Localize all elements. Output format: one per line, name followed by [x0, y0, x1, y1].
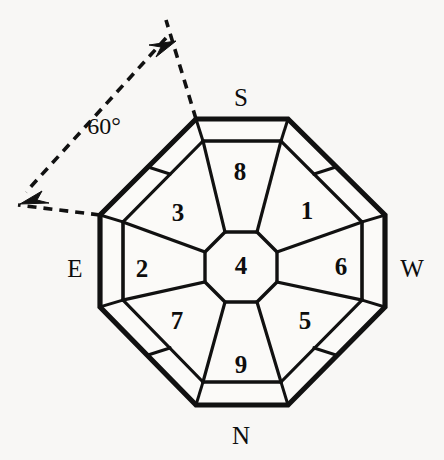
- cell-label-8: 8: [234, 158, 247, 185]
- cell-label-5: 5: [299, 307, 312, 334]
- angle-ray-lower: [18, 205, 100, 215]
- angle-arrowhead-lower: [20, 191, 49, 204]
- cell-label-2: 2: [136, 255, 149, 282]
- cell-label-1: 1: [301, 197, 314, 224]
- angle-label: 60°: [87, 113, 121, 139]
- cell-label-9: 9: [235, 351, 248, 378]
- octagon-compass-diagram: 60° S W N E 1 2 3 4 5 6 7 8 9: [0, 0, 444, 460]
- compass-label-east: E: [67, 255, 82, 282]
- figure-canvas: 60° S W N E 1 2 3 4 5 6 7 8 9: [0, 0, 444, 460]
- cell-label-6: 6: [335, 253, 348, 280]
- compass-label-north: N: [232, 422, 250, 449]
- cell-label-7: 7: [171, 307, 184, 334]
- angle-ray-upper: [166, 20, 196, 119]
- compass-label-west: W: [400, 255, 424, 282]
- cell-label-3: 3: [172, 199, 185, 226]
- cell-label-4: 4: [235, 252, 248, 279]
- compass-label-south: S: [234, 84, 248, 111]
